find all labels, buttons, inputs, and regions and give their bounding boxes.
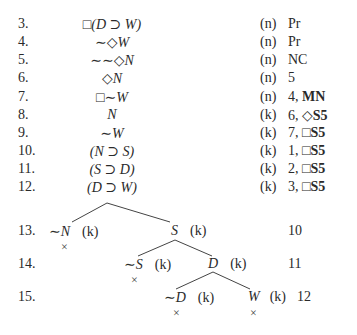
formula: ∼D: [164, 290, 186, 305]
line-number: 14.: [18, 256, 36, 272]
right-branch-node: S(k): [171, 223, 206, 239]
left-branch-node: ∼S(k): [124, 256, 171, 273]
world-label: (k): [190, 223, 206, 238]
closed-branch-mark: ×: [173, 306, 180, 321]
world-label: (k): [270, 289, 286, 304]
formula: ∼N: [49, 224, 70, 239]
formula: ∼S: [124, 257, 143, 272]
justification: 11: [288, 256, 301, 272]
tree-branches: [0, 0, 357, 335]
formula: D: [208, 256, 218, 271]
branch-line: [213, 272, 250, 289]
closed-branch-mark: ×: [250, 306, 257, 321]
world-label: (k): [198, 290, 214, 305]
right-branch-node: W(k): [248, 289, 286, 305]
tree-row: 14. ∼S(k) D(k) 11: [0, 256, 357, 274]
line-number: 13.: [18, 223, 36, 239]
left-branch-node: ∼D(k): [164, 289, 214, 306]
line-number: 15.: [18, 289, 36, 305]
formula: S: [171, 223, 178, 238]
world-label: (k): [82, 224, 98, 239]
formula: W: [248, 289, 260, 304]
world-label: (k): [230, 256, 246, 271]
branch-line: [175, 240, 212, 256]
branch-line: [72, 203, 107, 222]
right-branch-node: D(k): [208, 256, 246, 272]
closed-branch-mark: ×: [131, 273, 138, 288]
branch-line: [107, 203, 170, 222]
justification: 10: [288, 223, 302, 239]
closed-branch-mark: ×: [61, 240, 68, 255]
world-label: (k): [155, 257, 171, 272]
left-branch-node: ∼N(k): [49, 223, 98, 240]
tree-row: 15. ∼D(k) W(k) 12: [0, 289, 357, 307]
branch-line: [138, 240, 175, 256]
justification: 12: [297, 289, 311, 305]
branch-line: [176, 272, 213, 289]
tree-row: 13. ∼N(k) S(k) 10: [0, 223, 357, 241]
